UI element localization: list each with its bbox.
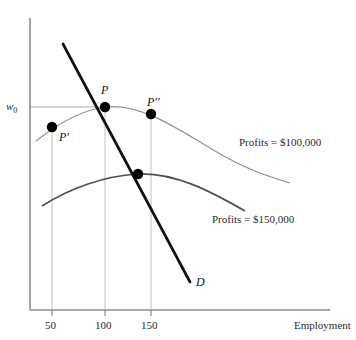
isoprofit-100k-label: Profits = $100,000 bbox=[239, 137, 321, 148]
figure-canvas bbox=[0, 0, 356, 340]
demand-curve-label: D bbox=[196, 276, 205, 288]
point-p-label: P bbox=[101, 84, 108, 96]
y-axis-wage-label: w0 bbox=[6, 101, 17, 115]
x-tick-label-150: 150 bbox=[141, 320, 158, 331]
point-p-double-prime-label: P'' bbox=[147, 96, 159, 108]
axes bbox=[30, 18, 330, 310]
point-p-prime-label: P' bbox=[59, 131, 69, 143]
y-axis-wage-subscript: 0 bbox=[13, 106, 17, 115]
point-p-double-prime-marker bbox=[146, 109, 156, 119]
labor-demand-curve bbox=[63, 44, 190, 282]
x-tick-label-100: 100 bbox=[95, 320, 112, 331]
x-axis-ticks bbox=[52, 310, 151, 316]
x-tick-label-50: 50 bbox=[45, 320, 56, 331]
point-tangency-150k-marker bbox=[133, 169, 143, 179]
isoprofit-labor-demand-figure: w0 P P' P'' D Profits = $100,000 Profits… bbox=[0, 0, 356, 340]
x-axis-title: Employment bbox=[294, 320, 351, 331]
point-p-marker bbox=[100, 102, 110, 112]
point-p-prime-marker bbox=[47, 122, 57, 132]
isoprofit-150k-label: Profits = $150,000 bbox=[212, 214, 294, 225]
